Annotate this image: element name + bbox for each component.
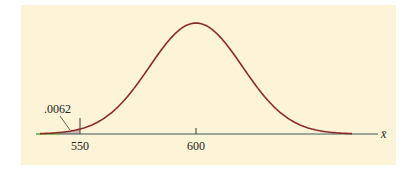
tick-label-600: 600 (187, 139, 205, 153)
annotation-leader-line (60, 116, 70, 130)
normal-curve-chart: .0062 550 600 x̄ (0, 0, 416, 175)
normal-curve (40, 23, 352, 134)
x-axis-label: x̄ (380, 127, 387, 141)
tick-label-550: 550 (71, 139, 89, 153)
tail-area-label: .0062 (44, 102, 71, 116)
